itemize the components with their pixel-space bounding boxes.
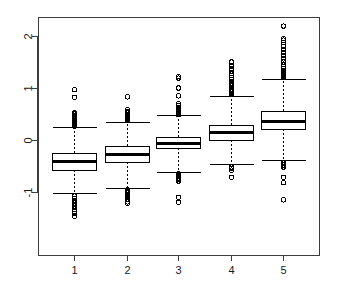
outlier-point bbox=[281, 198, 285, 202]
boxplot-group bbox=[262, 24, 306, 202]
outlier-point bbox=[176, 86, 180, 90]
boxplot-canvas: -101212345 bbox=[0, 0, 338, 289]
boxplot-group bbox=[106, 95, 150, 206]
outlier-point bbox=[281, 175, 285, 179]
y-axis-tick-label: -1 bbox=[22, 188, 34, 198]
outlier-point bbox=[72, 95, 76, 99]
boxplot-figure: -101212345 bbox=[0, 0, 338, 289]
y-axis-tick-label: 2 bbox=[22, 33, 34, 39]
x-axis-tick-label: 2 bbox=[124, 264, 130, 276]
boxplot-group bbox=[157, 74, 201, 204]
outlier-point bbox=[281, 24, 285, 28]
outlier-point bbox=[72, 214, 76, 218]
x-axis-tick-label: 3 bbox=[175, 264, 181, 276]
outlier-point bbox=[229, 175, 233, 179]
outlier-point bbox=[281, 180, 285, 184]
outlier-point bbox=[125, 95, 129, 99]
y-axis-tick-label: 0 bbox=[22, 137, 34, 143]
x-axis-tick-label: 5 bbox=[280, 264, 286, 276]
outlier-point bbox=[176, 195, 180, 199]
boxplot-group bbox=[53, 87, 97, 218]
y-axis-tick-label: 1 bbox=[22, 85, 34, 91]
outlier-point bbox=[176, 94, 180, 98]
boxplot-group bbox=[210, 60, 254, 180]
outlier-point bbox=[176, 200, 180, 204]
x-axis-tick-label: 4 bbox=[228, 264, 234, 276]
x-axis-tick-label: 1 bbox=[71, 264, 77, 276]
outlier-point bbox=[72, 87, 76, 91]
